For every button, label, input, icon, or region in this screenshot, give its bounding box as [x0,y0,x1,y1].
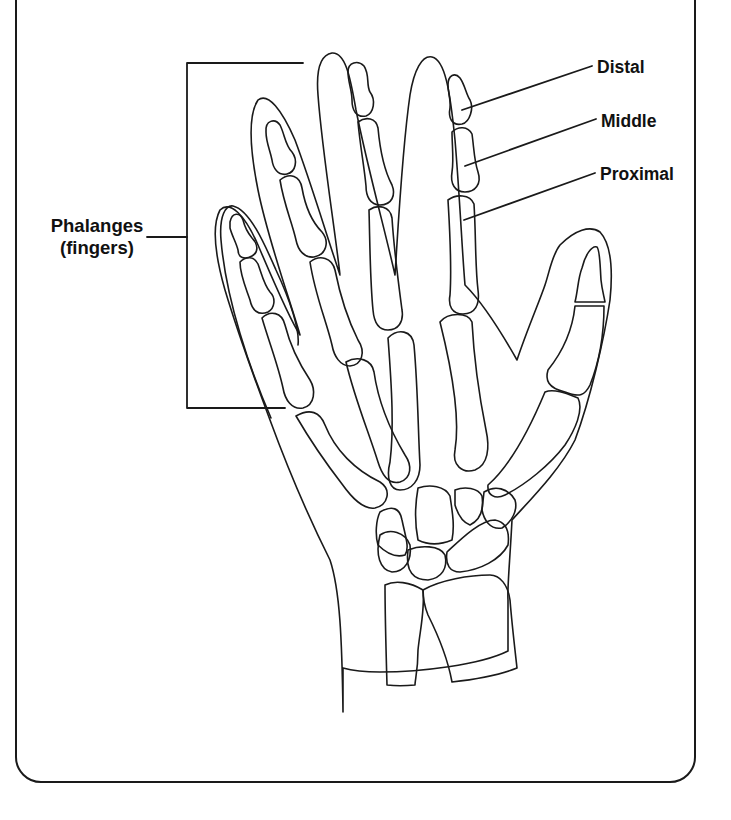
middle-label: Middle [601,111,656,131]
ring-distal-phalanx [266,121,295,174]
phalanges-label-line1: Phalanges [41,215,153,237]
thumb-metacarpal [488,391,580,497]
middle-middle-phalanx [358,119,394,205]
phalanges-label-line2: (fingers) [41,237,153,259]
proximal-label: Proximal [600,164,674,184]
index-metacarpal [440,315,488,471]
ring-middle-phalanx [280,176,326,257]
little-proximal-phalanx [262,313,314,408]
thumb-proximal-phalanx [547,306,604,395]
middle-metacarpal [388,332,420,490]
little-metacarpal [296,412,387,508]
ring-proximal-phalanx [310,258,362,366]
phalanges-label: Phalanges (fingers) [41,215,153,259]
thumb-distal-phalanx [575,247,605,302]
ring-metacarpal [346,359,410,483]
phalanges-bracket [187,63,303,408]
index-middle-phalanx [452,128,480,192]
middle-leader [465,119,596,166]
index-distal-phalanx [448,75,472,124]
carpal-trapezoid [455,488,483,525]
distal-label: Distal [597,57,645,77]
hand-outline [215,53,611,712]
distal-leader [462,66,592,110]
little-middle-phalanx [240,258,274,314]
carpal-capitate [416,486,454,544]
carpal-triquetrum [407,547,445,580]
little-distal-phalanx [230,214,257,258]
proximal-leader [464,173,595,220]
radius [423,575,517,682]
carpal-pisiform [378,532,410,572]
